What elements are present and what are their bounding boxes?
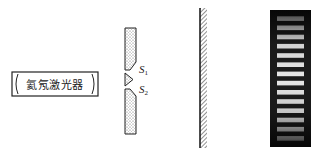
- slit-label-s2: S2: [139, 84, 148, 97]
- slit-middle-block: [125, 73, 133, 86]
- slit-lower-block: [125, 89, 136, 134]
- slit-s1-subscript: 1: [145, 69, 149, 77]
- slit-s2-subscript: 2: [145, 89, 149, 97]
- slit-label-s1: S1: [139, 64, 148, 77]
- fringe-pattern: [270, 10, 311, 147]
- fringe-fade-overlay: [270, 10, 311, 147]
- laser-label: 氦氖激光器: [12, 72, 98, 96]
- slit-upper-block: [125, 28, 136, 70]
- screen: [200, 8, 207, 148]
- double-slit: [125, 28, 136, 134]
- screen-hatching: [200, 8, 207, 148]
